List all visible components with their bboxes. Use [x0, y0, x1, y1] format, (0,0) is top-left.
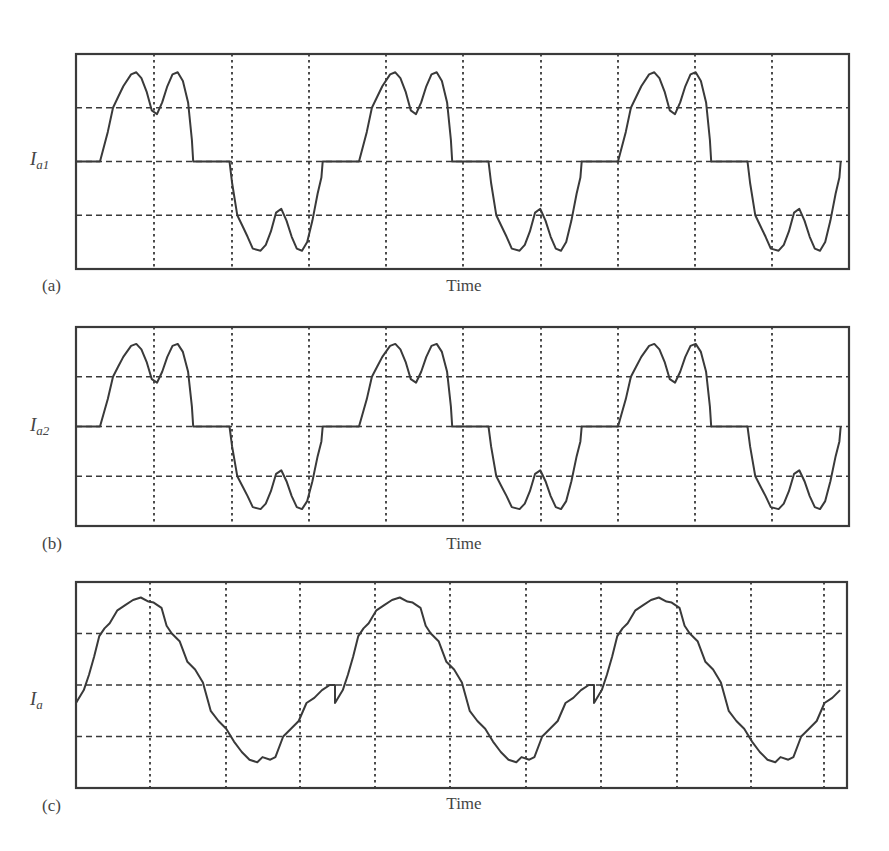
y-label-sub: a	[36, 697, 43, 712]
y-label-sub: a1	[36, 157, 49, 172]
y-axis-label-c: Ia	[30, 688, 43, 713]
y-axis-label-b: Ia2	[30, 414, 49, 439]
figure-canvas	[0, 0, 889, 851]
plot-b	[76, 327, 849, 526]
plot-a	[76, 54, 849, 269]
panel-letter-c: (c)	[42, 796, 61, 816]
plot-c	[76, 582, 847, 788]
y-axis-label-a: Ia1	[30, 148, 49, 173]
waveform-line	[76, 598, 840, 763]
panel-letter-a: (a)	[42, 276, 61, 296]
panel-letter-b: (b)	[42, 534, 62, 554]
y-label-sub: a2	[36, 423, 49, 438]
x-axis-label-b: Time	[446, 534, 481, 554]
x-axis-label-c: Time	[446, 794, 481, 814]
x-axis-label-a: Time	[446, 276, 481, 296]
